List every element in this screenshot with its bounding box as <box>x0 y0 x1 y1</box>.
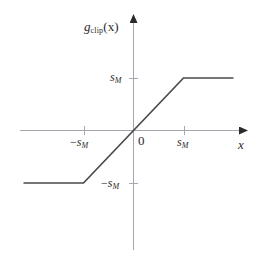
x-tick-label-negative: −sM <box>70 136 88 150</box>
clipping-function-figure: gclip(x) x 0 sM −sM sM −sM <box>0 0 265 263</box>
x-tick-label-positive-subscript: M <box>182 141 189 150</box>
y-tick-label-positive: sM <box>110 71 121 85</box>
y-axis-label-arg: (x) <box>103 19 118 34</box>
x-tick-label-positive: sM <box>177 136 188 150</box>
y-tick-label-negative-subscript: M <box>112 182 119 191</box>
y-tick-label-positive-subscript: M <box>115 76 122 85</box>
x-axis-label: x <box>238 138 244 151</box>
y-axis-label-subscript: clip <box>91 26 104 35</box>
x-tick-label-negative-sign: − <box>70 135 77 149</box>
plot-canvas <box>0 0 265 263</box>
origin-label: 0 <box>138 134 145 147</box>
y-tick-label-negative: −sM <box>101 177 119 191</box>
y-axis-label: gclip(x) <box>84 20 118 35</box>
y-tick-label-negative-sign: − <box>101 176 108 190</box>
x-tick-label-negative-subscript: M <box>81 141 88 150</box>
